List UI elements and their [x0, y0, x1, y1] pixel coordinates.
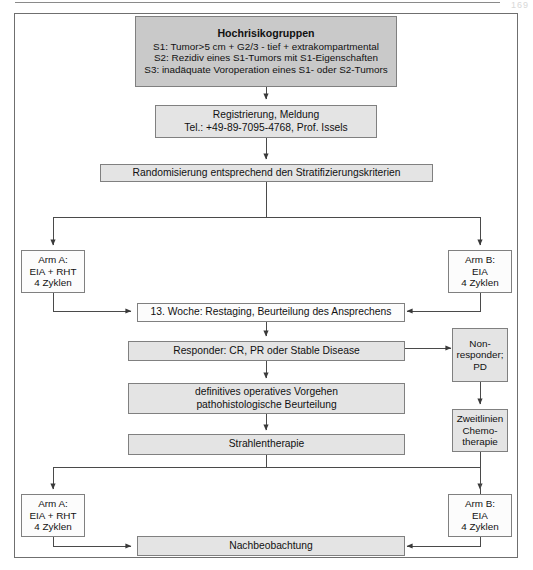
hochrisiko-title: Hochrisikogruppen	[217, 27, 314, 39]
randomisierung-line1: Randomisierung entsprechend den Stratifi…	[133, 167, 401, 179]
arm-a-bottom-line3: 4 Zyklen	[34, 521, 71, 533]
zweitlinien-line3: therapie	[462, 436, 498, 448]
node-arm-a-top: Arm A: EIA + RHT 4 Zyklen	[21, 250, 85, 293]
node-registrierung: Registrierung, Meldung Tel.: +49-89-7095…	[155, 105, 377, 138]
zweitlinien-line2: Chemo-	[462, 425, 497, 437]
node-arm-b-bottom: Arm B: EIA 4 Zyklen	[448, 494, 512, 537]
arm-a-bottom-line1: Arm A:	[38, 498, 68, 510]
registrierung-line1: Registrierung, Meldung	[213, 109, 319, 121]
node-nonresponder: Non- responder; PD	[452, 328, 508, 382]
arm-a-top-line2: EIA + RHT	[30, 266, 77, 278]
arm-a-bottom-line2: EIA + RHT	[30, 510, 77, 522]
node-hochrisikogruppen: Hochrisikogruppen S1: Tumor>5 cm + G2/3 …	[135, 16, 397, 87]
strahlentherapie-line1: Strahlentherapie	[229, 438, 305, 450]
arm-b-top-line3: 4 Zyklen	[461, 277, 498, 289]
responder-line1: Responder: CR, PR oder Stable Disease	[173, 345, 360, 357]
hochrisiko-s2: S2: Rezidiv eines S1-Tumors mit S1-Eigen…	[154, 52, 378, 64]
page-number: 169	[511, 0, 529, 10]
node-arm-a-bottom: Arm A: EIA + RHT 4 Zyklen	[21, 494, 85, 537]
hochrisiko-s3: S3: inadäquate Voroperation eines S1- od…	[144, 64, 387, 76]
nonresponder-line2: responder;	[456, 349, 503, 361]
nonresponder-line1: Non-	[469, 338, 490, 350]
arm-b-top-line2: EIA	[472, 266, 488, 278]
flowchart-page: 169	[0, 0, 533, 570]
header-rule	[15, 2, 500, 3]
diagram-frame	[14, 13, 518, 558]
zweitlinien-line1: Zweitlinien	[457, 413, 504, 425]
arm-a-top-line3: 4 Zyklen	[34, 277, 71, 289]
hochrisiko-s1: S1: Tumor>5 cm + G2/3 - tief + extrakomp…	[153, 41, 379, 53]
node-randomisierung: Randomisierung entsprechend den Stratifi…	[100, 164, 433, 182]
registrierung-line2: Tel.: +49-89-7095-4768, Prof. Issels	[184, 122, 347, 134]
arm-b-top-line1: Arm B:	[465, 254, 495, 266]
node-responder: Responder: CR, PR oder Stable Disease	[128, 341, 405, 361]
node-operation: definitives operatives Vorgehen pathohis…	[128, 383, 405, 414]
node-zweitlinien: Zweitlinien Chemo- therapie	[452, 409, 508, 452]
node-arm-b-top: Arm B: EIA 4 Zyklen	[448, 250, 512, 293]
arm-b-bottom-line2: EIA	[472, 510, 488, 522]
arm-a-top-line1: Arm A:	[38, 254, 68, 266]
node-nachbeobachtung: Nachbeobachtung	[137, 536, 405, 556]
node-restaging: 13. Woche: Restaging, Beurteilung des An…	[137, 303, 405, 322]
operation-line2: pathohistologische Beurteilung	[196, 399, 336, 411]
arm-b-bottom-line3: 4 Zyklen	[461, 521, 498, 533]
operation-line1: definitives operatives Vorgehen	[195, 386, 338, 398]
restaging-line1: 13. Woche: Restaging, Beurteilung des An…	[151, 306, 392, 318]
nachbeobachtung-line1: Nachbeobachtung	[229, 540, 313, 552]
nonresponder-line3: PD	[473, 361, 487, 373]
node-strahlentherapie: Strahlentherapie	[128, 434, 405, 455]
arm-b-bottom-line1: Arm B:	[465, 498, 495, 510]
